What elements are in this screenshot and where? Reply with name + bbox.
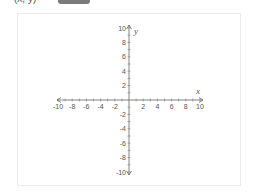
- x-tick-label: -2: [112, 103, 118, 110]
- x-tick-label: 8: [184, 103, 188, 110]
- x-tick-label: -4: [97, 103, 103, 110]
- x-tick-label: 4: [155, 103, 159, 110]
- x-tick-label: 2: [141, 103, 145, 110]
- coordinate-plane: -10-8-6-4-2246810108642-2-4-6-8-10 y x: [0, 0, 254, 196]
- y-tick-label: 4: [122, 68, 126, 75]
- x-tick-label: -8: [69, 103, 75, 110]
- y-tick-label: 10: [118, 25, 126, 32]
- x-axis-label: x: [195, 86, 200, 96]
- y-tick-label: 6: [122, 53, 126, 60]
- y-tick-label: -6: [120, 140, 126, 147]
- y-tick-label: -10: [116, 169, 126, 176]
- y-tick-label: 8: [122, 39, 126, 46]
- x-tick-label: 10: [196, 103, 204, 110]
- y-tick-label: -2: [120, 111, 126, 118]
- y-axis-label: y: [133, 26, 138, 36]
- y-tick-label: 2: [122, 82, 126, 89]
- x-tick-label: -10: [53, 103, 63, 110]
- x-tick-label: -6: [83, 103, 89, 110]
- y-tick-label: -4: [120, 125, 126, 132]
- y-tick-label: -8: [120, 154, 126, 161]
- x-tick-label: 6: [170, 103, 174, 110]
